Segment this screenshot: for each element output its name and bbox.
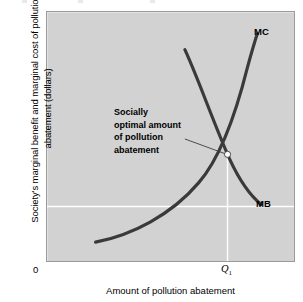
y-axis-title: Society's marginal benefit and marginal … (29, 0, 54, 234)
q1-subscript: 1 (229, 269, 233, 277)
mc-curve-label: MC (254, 26, 269, 37)
annotation-line-1: Socially (114, 106, 198, 119)
annotation-line-4: abatement (114, 144, 198, 157)
annotation-line-2: optimal amount (114, 119, 198, 132)
x-axis-tick-q1: Q1 (221, 263, 232, 277)
x-axis-origin-label: 0 (33, 264, 38, 275)
x-axis-title: Amount of pollution abatement (46, 285, 295, 296)
mb-curve-label: MB (256, 198, 271, 209)
optimal-point-marker (224, 151, 230, 157)
annotation-line-3: of pollution (114, 131, 198, 144)
socially-optimal-annotation: Socially optimal amount of pollution aba… (114, 106, 198, 156)
q1-letter: Q (221, 263, 229, 274)
pollution-abatement-chart: Society's marginal benefit and marginal … (0, 0, 303, 302)
